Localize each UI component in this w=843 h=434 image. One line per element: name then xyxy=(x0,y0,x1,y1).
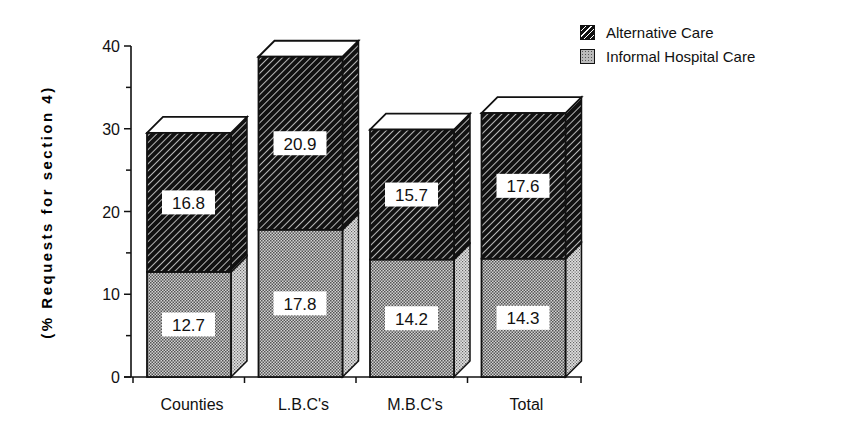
hatched-swatch-icon xyxy=(580,25,595,40)
bar-counties xyxy=(147,117,247,377)
svg-text:17.6: 17.6 xyxy=(506,177,539,196)
y-tick-label: 40 xyxy=(102,38,120,55)
svg-text:15.7: 15.7 xyxy=(395,186,428,205)
value-label: 14.2 xyxy=(385,306,438,330)
y-axis-title: (% Requests for section 4) xyxy=(38,85,55,338)
y-tick-label: 0 xyxy=(111,369,120,386)
bar-lbcs xyxy=(259,41,359,377)
svg-text:14.3: 14.3 xyxy=(506,309,539,328)
svg-text:12.7: 12.7 xyxy=(172,316,205,335)
value-label: 16.8 xyxy=(162,190,215,214)
x-tick-label: L.B.C's xyxy=(278,396,329,413)
stippled-swatch-icon xyxy=(580,49,595,64)
x-tick-label: M.B.C's xyxy=(387,396,443,413)
svg-text:20.9: 20.9 xyxy=(283,135,316,154)
y-tick-label: 30 xyxy=(102,121,120,138)
bar-total xyxy=(482,97,582,377)
legend-label: Informal Hospital Care xyxy=(606,48,755,65)
x-tick-label: Total xyxy=(510,396,544,413)
svg-text:16.8: 16.8 xyxy=(172,194,205,213)
value-label: 12.7 xyxy=(162,312,215,336)
svg-text:14.2: 14.2 xyxy=(395,310,428,329)
bar-mbcs xyxy=(370,114,470,377)
value-label: 14.3 xyxy=(497,306,550,330)
value-label: 15.7 xyxy=(385,183,438,207)
value-label: 17.6 xyxy=(497,174,550,198)
svg-text:17.8: 17.8 xyxy=(283,295,316,314)
y-tick-label: 20 xyxy=(102,204,120,221)
value-label: 17.8 xyxy=(274,291,327,315)
y-tick-label: 10 xyxy=(102,286,120,303)
legend-item-alternative-care: Alternative Care xyxy=(580,20,755,44)
x-tick-label: Counties xyxy=(160,396,223,413)
value-label: 20.9 xyxy=(274,131,327,155)
legend-item-informal-hospital-care: Informal Hospital Care xyxy=(580,44,755,68)
legend-label: Alternative Care xyxy=(606,24,714,41)
legend: Alternative Care Informal Hospital Care xyxy=(580,20,755,68)
